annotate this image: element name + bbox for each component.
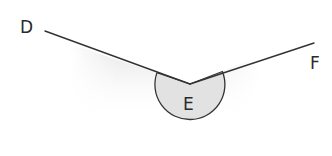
label-e: E [183,94,194,114]
label-f: F [310,53,320,73]
angle-diagram: D F E [0,0,332,156]
label-d: D [20,17,33,37]
